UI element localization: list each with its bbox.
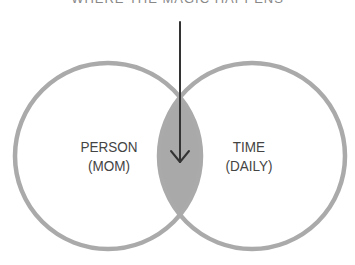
time-label: TIME	[208, 137, 291, 156]
circle-label-person: PERSON (MOM)	[68, 137, 151, 175]
person-sublabel: (MOM)	[68, 156, 151, 175]
venn-diagram	[0, 0, 355, 265]
person-label: PERSON	[68, 137, 151, 156]
time-sublabel: (DAILY)	[208, 156, 291, 175]
circle-label-time: TIME (DAILY)	[208, 137, 291, 175]
